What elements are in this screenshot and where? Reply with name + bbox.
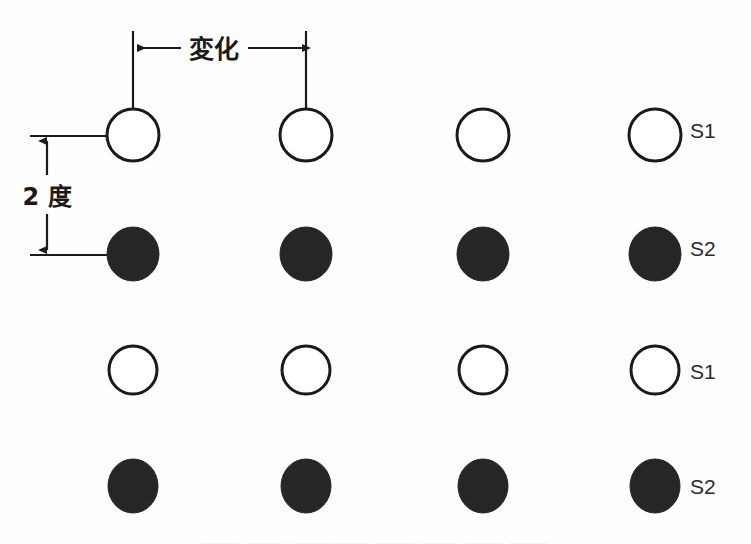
open-circle-marker	[457, 109, 509, 161]
row-label-s2-3: S2	[690, 475, 716, 498]
open-circle-marker	[459, 346, 507, 394]
open-circle-marker	[107, 109, 159, 161]
filled-circle-marker	[280, 227, 332, 281]
horizontal-dimension-group: 変化	[133, 31, 306, 108]
filled-circle-marker	[630, 459, 680, 513]
filled-circle-marker	[458, 459, 508, 513]
open-circle-marker	[109, 346, 157, 394]
filled-circle-marker	[107, 227, 159, 281]
row-label-group: S1S2S1S2	[690, 119, 716, 498]
filled-circle-marker	[457, 227, 509, 281]
figure-canvas: 変化 2 度 S1S2S1S2 ⸻ ⸻ ⸻⸻ ⸻ ⸻ ⸻ ⸻	[0, 0, 751, 544]
marker-grid	[107, 109, 681, 513]
open-circle-marker	[282, 346, 330, 394]
scatter-diagram: 変化 2 度 S1S2S1S2	[0, 0, 751, 544]
vertical-dimension-label: 2 度	[22, 183, 72, 211]
filled-circle-marker	[108, 459, 158, 513]
row-label-s1-2: S1	[690, 360, 716, 383]
vertical-dimension-group: 2 度	[22, 136, 110, 255]
horizontal-dimension-label: 変化	[189, 35, 239, 64]
cropped-caption: ⸻ ⸻ ⸻⸻ ⸻ ⸻ ⸻ ⸻	[0, 530, 751, 544]
open-circle-marker	[631, 346, 679, 394]
open-circle-marker	[629, 109, 681, 161]
open-circle-marker	[280, 109, 332, 161]
filled-circle-marker	[629, 227, 681, 281]
row-label-s1-0: S1	[690, 119, 716, 142]
row-label-s2-1: S2	[690, 237, 716, 260]
filled-circle-marker	[281, 459, 331, 513]
